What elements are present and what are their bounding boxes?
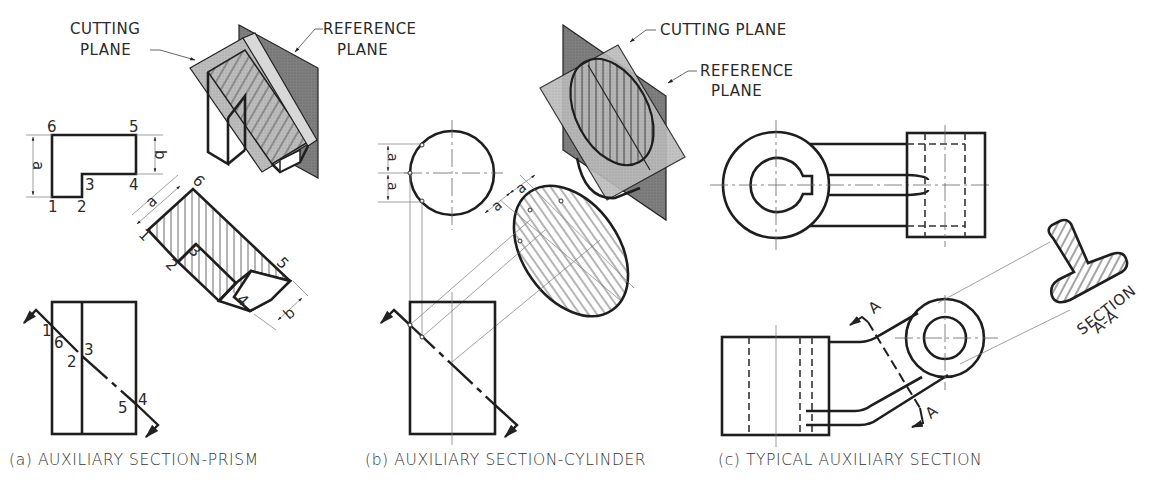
front-point-5: 5 bbox=[118, 399, 128, 417]
cut-marker-a-top: A bbox=[865, 296, 885, 317]
t-section-shape bbox=[1049, 220, 1127, 302]
point-6-label: 6 bbox=[47, 118, 57, 136]
dim-a-upper: a bbox=[385, 153, 401, 162]
panel-a-prism: CUTTING PLANE REFERENCE PLANE a b 6 5 3 … bbox=[24, 20, 417, 437]
drawing-canvas: CUTTING PLANE REFERENCE PLANE a b 6 5 3 … bbox=[0, 0, 1153, 487]
caption-panel-a: (a) AUXILIARY SECTION-PRISM bbox=[9, 451, 259, 469]
cutting-plane-leader bbox=[150, 50, 195, 60]
dim-b-label: b bbox=[151, 150, 169, 160]
point-1-label: 1 bbox=[48, 198, 58, 216]
bracket-top-view bbox=[710, 120, 990, 250]
bracket-front-view: A A bbox=[722, 242, 1070, 447]
reference-plane-leader bbox=[295, 29, 323, 52]
cutting-plane-label: CUTTING PLANE bbox=[660, 21, 787, 39]
reference-plane-label-line2: PLANE bbox=[337, 41, 388, 59]
aux-point-6: 6 bbox=[189, 171, 209, 191]
aux-dim-b-label: b bbox=[280, 303, 299, 323]
point-3-label: 3 bbox=[85, 176, 95, 194]
section-a-a: SECTION A-A bbox=[1049, 220, 1140, 339]
front-point-3: 3 bbox=[84, 341, 94, 359]
cylinder-top-view: a a bbox=[378, 120, 503, 337]
reference-plane-label-line2: PLANE bbox=[711, 82, 762, 100]
point-2-label: 2 bbox=[77, 198, 87, 216]
panel-b-cylinder: CUTTING PLANE REFERENCE PLANE a a bbox=[378, 21, 794, 445]
front-point-1: 1 bbox=[42, 322, 52, 340]
front-point-4: 4 bbox=[138, 391, 148, 409]
cutting-plane-label-line1: CUTTING bbox=[70, 20, 140, 38]
aux-point-2: 2 bbox=[162, 255, 182, 275]
cutting-plane-leader bbox=[630, 30, 656, 42]
dim-a-label: a bbox=[29, 161, 47, 171]
reference-plane-label-line1: REFERENCE bbox=[323, 20, 417, 38]
reference-plane-label-line1: REFERENCE bbox=[700, 62, 794, 80]
cylinder-front-view bbox=[381, 292, 517, 445]
prism-auxiliary-section: a b 6 1 2 3 4 5 bbox=[132, 171, 308, 330]
prism-front-view: 1 6 3 2 5 4 bbox=[24, 302, 158, 437]
aux-dim-a-label: a bbox=[142, 191, 161, 211]
cut-marker-a-bottom: A bbox=[922, 401, 942, 422]
technical-drawing-figure: CUTTING PLANE REFERENCE PLANE a b 6 5 3 … bbox=[0, 0, 1153, 487]
point-5-label: 5 bbox=[129, 118, 139, 136]
panel-c-typical: A A SECTION A-A bbox=[710, 120, 1139, 447]
caption-panel-c: (c) TYPICAL AUXILIARY SECTION bbox=[718, 451, 982, 469]
aux-point-1: 1 bbox=[135, 225, 155, 245]
point-4-label: 4 bbox=[129, 176, 139, 194]
reference-plane-leader bbox=[668, 71, 697, 83]
front-point-6: 6 bbox=[54, 334, 64, 352]
caption-panel-b: (b) AUXILIARY SECTION-CYLINDER bbox=[365, 451, 646, 469]
cutting-plane-label-line2: PLANE bbox=[80, 41, 131, 59]
front-point-2: 2 bbox=[67, 353, 77, 371]
dim-a-lower: a bbox=[385, 182, 401, 191]
